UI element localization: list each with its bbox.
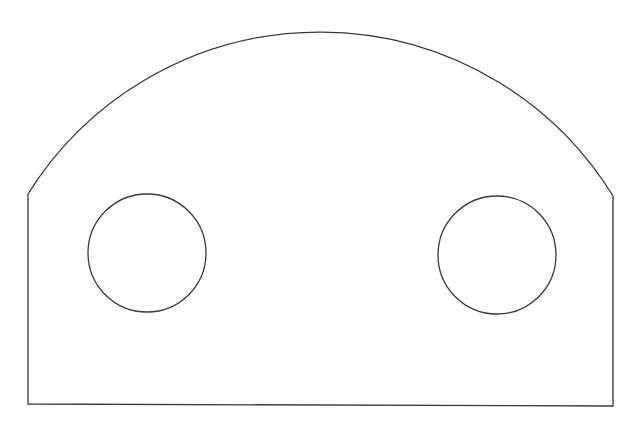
plate-diagram: [0, 0, 637, 433]
